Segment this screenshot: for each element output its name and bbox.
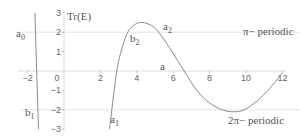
label-a0: a0: [16, 27, 25, 42]
label-a2: a2: [163, 20, 172, 35]
x-tick-label: 8: [207, 73, 212, 83]
x-tick-label: 0: [54, 73, 59, 83]
label-b2: b2: [130, 32, 140, 47]
x-tick-label: 4: [134, 73, 139, 83]
label-b1: b1: [25, 106, 35, 121]
y-tick-label: −1: [51, 85, 61, 95]
label-a1: a1: [110, 113, 119, 128]
two-pi-periodic-label: 2π− periodic: [228, 114, 284, 126]
x-tick-label: −2: [22, 73, 32, 83]
trace-chart: −2024681012−3−2−1123 Tr(E) a π− periodic…: [0, 0, 301, 138]
x-tick-label: 10: [241, 73, 251, 83]
y-tick-label: 3: [56, 8, 61, 18]
y-tick-label: −2: [51, 105, 61, 115]
y-tick-label: 1: [56, 47, 61, 57]
x-tick-label: 2: [98, 73, 103, 83]
y-tick-label: 2: [56, 27, 61, 37]
x-tick-label: 6: [171, 73, 176, 83]
y-tick-label: −3: [51, 124, 61, 134]
pi-periodic-label: π− periodic: [243, 25, 294, 37]
x-axis-title: a: [160, 60, 165, 72]
y-axis-title: Tr(E): [67, 10, 91, 23]
